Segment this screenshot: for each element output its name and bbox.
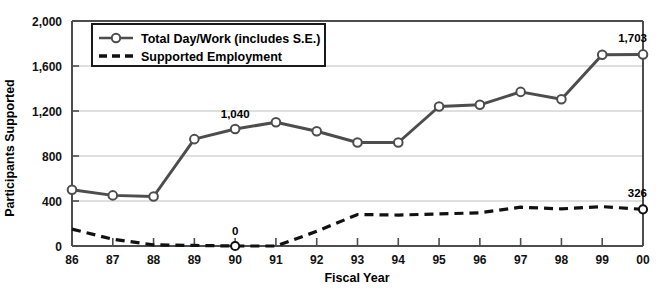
series-total-day-work-markers: [68, 50, 648, 201]
y-tick-label: 2,000: [32, 15, 62, 29]
x-tick-label: 96: [473, 253, 487, 267]
x-tick-label: 98: [555, 253, 569, 267]
legend-label-supported-employment: Supported Employment: [141, 50, 283, 64]
x-tick-label: 94: [392, 253, 406, 267]
x-tick-label: 91: [269, 253, 283, 267]
point-value-label: 1,040: [221, 108, 250, 120]
legend-circle-marker-icon: [112, 34, 120, 42]
x-tick-label: 86: [65, 253, 79, 267]
data-point-marker: [394, 138, 403, 147]
x-tick-label: 89: [188, 253, 202, 267]
data-point-marker: [598, 50, 607, 59]
x-axis-title: Fiscal Year: [324, 271, 389, 285]
point-value-label: 326: [628, 187, 647, 199]
data-point-marker: [639, 50, 648, 59]
y-tick-label: 1,200: [32, 105, 62, 119]
x-tick-label: 88: [147, 253, 161, 267]
data-point-marker: [272, 118, 281, 127]
data-point-marker: [639, 205, 647, 213]
point-value-label: 0: [232, 225, 238, 237]
gridlines: [72, 66, 643, 201]
data-point-marker: [476, 101, 485, 110]
x-tick-label: 87: [106, 253, 120, 267]
chart-container: 04008001,2001,6002,000 86878889909192939…: [0, 0, 663, 292]
x-tick-marks: [72, 238, 643, 246]
x-tick-label: 95: [432, 253, 446, 267]
data-point-marker: [312, 127, 321, 136]
line-chart: 04008001,2001,6002,000 86878889909192939…: [0, 0, 663, 292]
data-point-marker: [231, 125, 240, 134]
y-tick-label: 1,600: [32, 60, 62, 74]
data-point-marker: [190, 135, 199, 144]
y-tick-marks: [72, 21, 79, 246]
x-tick-labels: 868788899091929394959697989900: [65, 253, 650, 267]
y-tick-label: 0: [55, 240, 62, 254]
data-point-marker: [435, 102, 444, 111]
data-point-marker: [353, 138, 362, 147]
x-tick-label: 90: [228, 253, 242, 267]
y-tick-label: 800: [42, 150, 62, 164]
x-tick-label: 99: [596, 253, 610, 267]
y-axis-title: Participants Supported: [3, 79, 17, 217]
x-tick-label: 93: [351, 253, 365, 267]
data-point-marker: [516, 88, 525, 97]
x-tick-label: 00: [636, 253, 650, 267]
x-tick-label: 92: [310, 253, 324, 267]
legend: Total Day/Work (includes S.E.) Supported…: [92, 24, 325, 66]
data-point-marker: [557, 95, 566, 104]
data-point-marker: [231, 242, 239, 250]
series-total-day-work: [72, 54, 643, 196]
y-tick-label: 400: [42, 195, 62, 209]
x-tick-label: 97: [514, 253, 528, 267]
data-point-marker: [68, 185, 77, 194]
point-value-label: 1,703: [618, 32, 647, 44]
data-point-marker: [149, 192, 158, 201]
data-point-marker: [108, 191, 117, 200]
y-tick-labels: 04008001,2001,6002,000: [32, 15, 62, 254]
legend-label-total-day-work: Total Day/Work (includes S.E.): [141, 32, 320, 46]
